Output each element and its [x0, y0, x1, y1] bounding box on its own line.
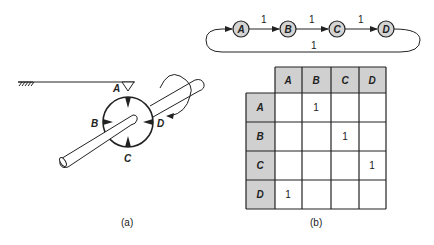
caption-a: (a) [121, 217, 133, 228]
graph-node-d: D [378, 21, 394, 37]
support-triangle-icon [122, 82, 134, 91]
matrix-col-header-b: B [312, 75, 319, 86]
shaft [150, 80, 204, 118]
point-label-c: C [124, 153, 132, 164]
adjacency-matrix: A B C D A B C D 1 1 1 1 [246, 67, 386, 209]
svg-text:D: D [382, 24, 389, 35]
caption-b: (b) [310, 217, 322, 228]
matrix-row-header-b: B [256, 131, 263, 142]
matrix-cell: 1 [285, 189, 291, 200]
matrix-row-header-c: C [256, 160, 264, 171]
graph-node-c: C [329, 21, 345, 37]
matrix-col-header-d: D [368, 75, 375, 86]
matrix-cell: 1 [342, 131, 348, 142]
edge-weight-b-c: 1 [309, 14, 315, 25]
matrix-row-header-a: A [255, 102, 263, 113]
graph-node-b: B [280, 21, 296, 37]
matrix-cell: 1 [313, 102, 319, 113]
matrix-cell: 1 [369, 160, 375, 171]
point-label-b: B [91, 118, 98, 129]
point-label-d: D [157, 118, 164, 129]
edge-weight-c-d: 1 [358, 14, 364, 25]
matrix-col-header-a: A [283, 75, 291, 86]
edge-weight-d-a: 1 [311, 40, 317, 51]
svg-text:C: C [333, 24, 341, 35]
svg-text:A: A [236, 24, 244, 35]
figure-a-shaft-diagram: A B C D (a) [18, 75, 204, 229]
ground-hatch-icon [18, 82, 34, 86]
matrix-row-header-d: D [256, 189, 263, 200]
edge-weight-a-b: 1 [261, 14, 267, 25]
svg-text:B: B [284, 24, 291, 35]
graph-node-a: A [233, 21, 249, 37]
matrix-col-header-c: C [341, 75, 349, 86]
point-label-a: A [112, 83, 120, 94]
figure-canvas: A B C D (a) 1 1 1 1 A B [0, 0, 434, 245]
figure-b-graph: 1 1 1 1 A B C D [206, 14, 420, 52]
